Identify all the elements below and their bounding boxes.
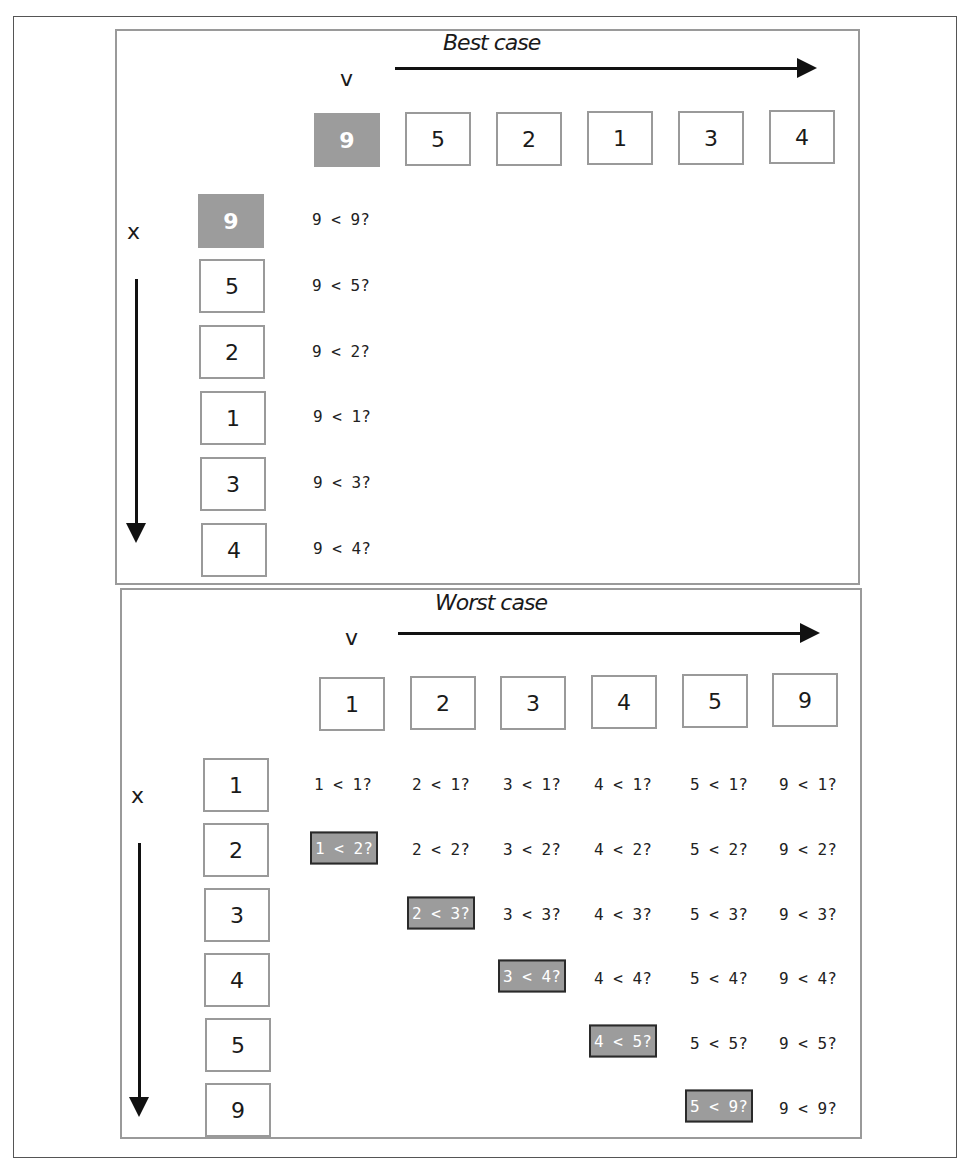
worst-v-cell-3: 4: [591, 675, 657, 729]
best-x-cell-5: 4: [201, 523, 267, 577]
best-case-title: Best case: [443, 30, 540, 55]
v-axis-label: v: [345, 625, 358, 650]
best-x-cell-1: 5: [199, 259, 265, 313]
worst-comparison: 5 < 2?: [690, 840, 748, 859]
worst-comparison: 5 < 5?: [690, 1034, 748, 1053]
worst-x-cell-4: 5: [205, 1018, 271, 1072]
worst-v-cell-2: 3: [500, 676, 566, 730]
best-v-cell-2: 2: [496, 112, 562, 166]
worst-comparison: 2 < 1?: [412, 775, 470, 794]
worst-comparison-highlighted: 4 < 5?: [589, 1025, 657, 1058]
worst-comparison-highlighted: 1 < 2?: [310, 832, 378, 865]
worst-comparison-highlighted: 3 < 4?: [498, 960, 566, 993]
worst-comparison: 9 < 1?: [779, 775, 837, 794]
worst-x-cell-3: 4: [204, 953, 270, 1007]
best-comparison-0: 9 < 9?: [312, 210, 370, 229]
v-direction-arrow-icon: [398, 632, 816, 635]
v-axis-label: v: [340, 66, 353, 91]
worst-x-cell-5: 9: [205, 1083, 271, 1137]
x-direction-arrow-icon: [135, 279, 138, 539]
worst-comparison: 3 < 1?: [503, 775, 561, 794]
worst-v-cell-1: 2: [410, 676, 476, 730]
best-v-cell-0: 9: [314, 113, 380, 167]
best-v-cell-1: 5: [405, 112, 471, 166]
worst-v-cell-4: 5: [682, 674, 748, 728]
worst-comparison-highlighted: 5 < 9?: [685, 1090, 753, 1123]
worst-comparison: 4 < 3?: [594, 905, 652, 924]
worst-comparison: 3 < 3?: [503, 905, 561, 924]
worst-comparison: 3 < 2?: [503, 840, 561, 859]
best-v-cell-3: 1: [587, 111, 653, 165]
worst-comparison: 4 < 4?: [594, 969, 652, 988]
worst-comparison: 4 < 2?: [594, 840, 652, 859]
worst-comparison: 5 < 3?: [690, 905, 748, 924]
worst-comparison: 9 < 3?: [779, 905, 837, 924]
x-direction-arrow-icon: [138, 843, 141, 1113]
worst-x-cell-1: 2: [203, 823, 269, 877]
worst-comparison: 5 < 4?: [690, 969, 748, 988]
x-axis-label: x: [127, 219, 140, 244]
worst-comparison: 9 < 4?: [779, 969, 837, 988]
worst-x-cell-0: 1: [203, 758, 269, 812]
worst-comparison: 5 < 1?: [690, 775, 748, 794]
worst-x-cell-2: 3: [204, 888, 270, 942]
x-axis-label: x: [131, 783, 144, 808]
v-direction-arrow-icon: [395, 67, 813, 70]
worst-case-title: Worst case: [435, 590, 547, 615]
worst-comparison: 9 < 9?: [779, 1099, 837, 1118]
worst-comparison: 9 < 2?: [779, 840, 837, 859]
best-comparison-1: 9 < 5?: [312, 276, 370, 295]
worst-comparison-highlighted: 2 < 3?: [407, 897, 475, 930]
best-comparison-5: 9 < 4?: [313, 539, 371, 558]
best-v-cell-4: 3: [678, 111, 744, 165]
best-x-cell-2: 2: [199, 325, 265, 379]
best-x-cell-4: 3: [200, 457, 266, 511]
worst-comparison: 4 < 1?: [594, 775, 652, 794]
best-comparison-2: 9 < 2?: [312, 342, 370, 361]
worst-comparison: 2 < 2?: [412, 840, 470, 859]
best-comparison-3: 9 < 1?: [313, 407, 371, 426]
best-x-cell-3: 1: [200, 391, 266, 445]
best-comparison-4: 9 < 3?: [313, 473, 371, 492]
worst-v-cell-0: 1: [319, 677, 385, 731]
worst-comparison: 9 < 5?: [779, 1034, 837, 1053]
best-x-cell-0: 9: [198, 194, 264, 248]
worst-comparison: 1 < 1?: [314, 775, 372, 794]
worst-v-cell-5: 9: [772, 673, 838, 727]
best-v-cell-5: 4: [769, 110, 835, 164]
